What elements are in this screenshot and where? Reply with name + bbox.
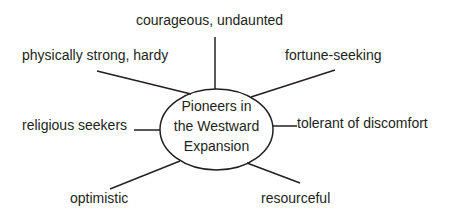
node-lower-left: optimistic <box>70 190 128 206</box>
center-line-2: the Westward <box>160 116 273 136</box>
connector-lower-right <box>247 163 300 183</box>
node-lower-right: resourceful <box>261 190 330 206</box>
concept-web-diagram: Pioneers in the Westward Expansion coura… <box>0 0 462 217</box>
center-line-1: Pioneers in <box>160 96 273 116</box>
node-right: tolerant of discomfort <box>297 115 428 131</box>
node-upper-right: fortune-seeking <box>285 47 382 63</box>
connector-upper-right <box>251 70 335 97</box>
node-top: courageous, undaunted <box>136 12 283 28</box>
node-upper-left: physically strong, hardy <box>22 47 168 63</box>
center-line-3: Expansion <box>160 136 273 156</box>
connector-lower-left <box>110 161 180 189</box>
connector-upper-left <box>97 71 191 94</box>
center-node: Pioneers in the Westward Expansion <box>160 96 273 156</box>
node-left: religious seekers <box>22 117 127 133</box>
